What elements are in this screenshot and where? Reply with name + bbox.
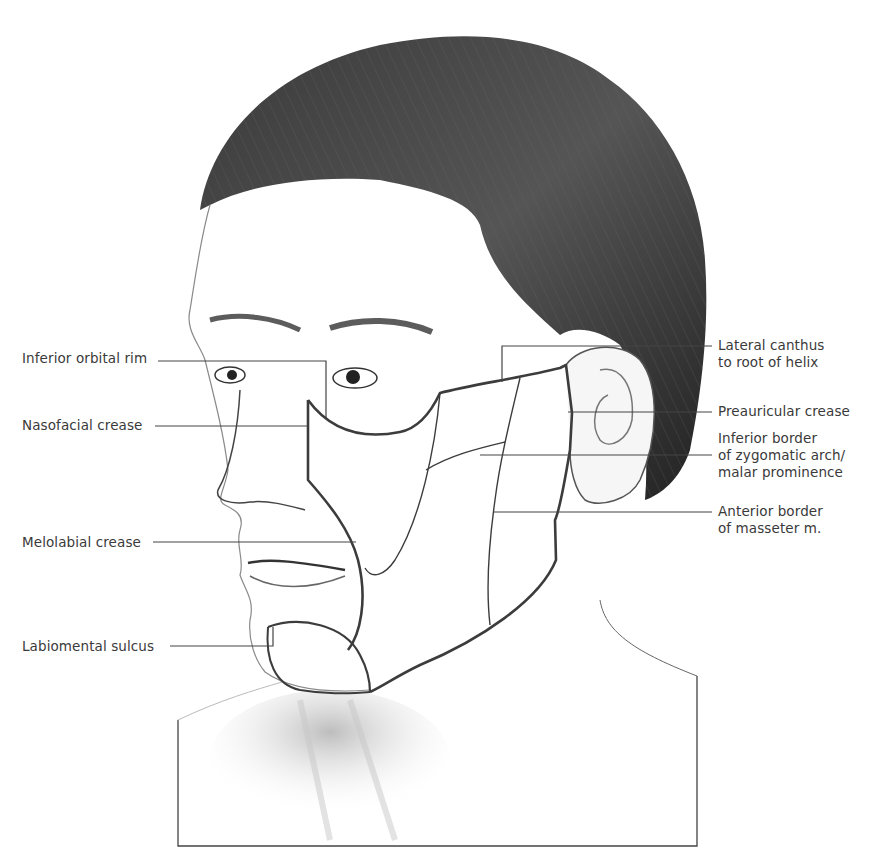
left-eyebrow <box>330 321 432 332</box>
nasofacial-melolabial-boundary <box>308 400 363 650</box>
right-eyebrow <box>210 316 300 330</box>
label-line: Anterior border <box>718 503 823 520</box>
leader-labiomental-sulcus <box>170 627 273 646</box>
facial-features <box>210 316 432 586</box>
face-silhouette <box>189 205 370 691</box>
upper-lip <box>248 561 345 570</box>
zygomatic-line <box>426 442 505 470</box>
label-line: Lateral canthus <box>718 337 824 354</box>
lower-lip <box>250 576 345 587</box>
label-preauricular-crease: Preauricular crease <box>718 403 850 420</box>
medial-cheek-boundary <box>308 365 572 692</box>
cheek-subunit-outlines <box>267 365 572 693</box>
label-line: to root of helix <box>718 354 824 371</box>
label-inferior-orbital-rim: Inferior orbital rim <box>22 350 147 367</box>
label-labiomental-sulcus: Labiomental sulcus <box>22 638 154 655</box>
neck-frame <box>178 600 697 846</box>
label-inferior-border-zygomatic: Inferior border of zygomatic arch/ malar… <box>718 430 845 481</box>
label-line: of masseter m. <box>718 520 823 537</box>
label-line: Preauricular crease <box>718 403 850 420</box>
label-line: of zygomatic arch/ <box>718 447 845 464</box>
label-melolabial-crease: Melolabial crease <box>22 534 141 551</box>
nose <box>218 390 305 510</box>
ear <box>566 347 654 503</box>
label-anterior-border-masseter: Anterior border of masseter m. <box>718 503 823 537</box>
label-nasofacial-crease: Nasofacial crease <box>22 417 142 434</box>
malar-curve <box>365 393 440 575</box>
masseter-border <box>488 378 520 625</box>
label-line: Inferior border <box>718 430 845 447</box>
label-lateral-canthus: Lateral canthus to root of helix <box>718 337 824 371</box>
label-line: malar prominence <box>718 464 845 481</box>
